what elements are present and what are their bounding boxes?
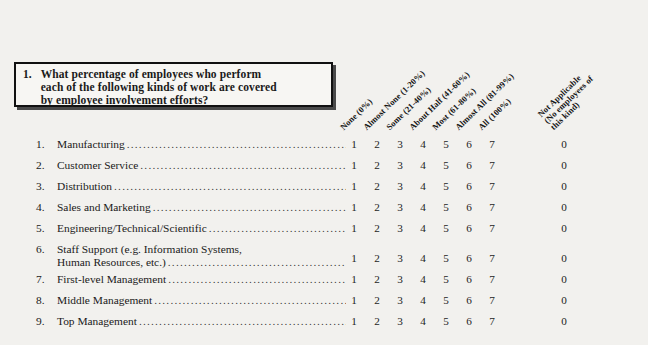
scale-option-most[interactable]: 5 — [439, 315, 453, 328]
scale-option-about-half[interactable]: 4 — [416, 273, 430, 286]
scale-option-none[interactable]: 1 — [347, 222, 361, 235]
scale-option-about-half[interactable]: 4 — [416, 201, 430, 214]
item-label-text: Distribution — [57, 180, 112, 193]
item-label-line: Customer Service — [57, 159, 346, 172]
scale-option-some[interactable]: 3 — [393, 252, 407, 265]
scale-option-some[interactable]: 3 — [393, 138, 407, 151]
item-number: 1. — [36, 138, 45, 151]
scale-option-none[interactable]: 1 — [347, 294, 361, 307]
scale-option-not-applicable[interactable]: 0 — [557, 294, 571, 307]
scale-option-almost-all[interactable]: 6 — [462, 159, 476, 172]
scale-option-some[interactable]: 3 — [393, 201, 407, 214]
scale-option-none[interactable]: 1 — [347, 273, 361, 286]
scale-option-most[interactable]: 5 — [439, 222, 453, 235]
scale-option-all[interactable]: 7 — [485, 159, 499, 172]
item-label: First-level Management — [57, 273, 346, 286]
scale-option-some[interactable]: 3 — [393, 294, 407, 307]
item-label: Middle Management — [57, 294, 346, 307]
scale-option-almost-none[interactable]: 2 — [370, 294, 384, 307]
scale-option-none[interactable]: 1 — [347, 180, 361, 193]
item-label-line: Distribution — [57, 180, 346, 193]
scale-option-almost-none[interactable]: 2 — [370, 159, 384, 172]
scale-option-almost-all[interactable]: 6 — [462, 222, 476, 235]
item-label: Distribution — [57, 180, 346, 193]
item-label-text: Customer Service — [57, 159, 138, 172]
scale-option-not-applicable[interactable]: 0 — [557, 252, 571, 265]
scale-option-most[interactable]: 5 — [439, 180, 453, 193]
scale-option-all[interactable]: 7 — [485, 294, 499, 307]
scale-option-almost-none[interactable]: 2 — [370, 273, 384, 286]
scale-option-none[interactable]: 1 — [347, 201, 361, 214]
scale-option-about-half[interactable]: 4 — [416, 294, 430, 307]
item-row: 5.Engineering/Technical/Scientific 12345… — [0, 218, 648, 239]
item-label-text: Human Resources, etc.) — [57, 256, 166, 269]
scale-option-almost-none[interactable]: 2 — [370, 222, 384, 235]
scale-option-not-applicable[interactable]: 0 — [557, 201, 571, 214]
item-row: 1.Manufacturing12345670 — [0, 134, 648, 155]
scale-option-all[interactable]: 7 — [485, 201, 499, 214]
scale-option-almost-all[interactable]: 6 — [462, 252, 476, 265]
scale-option-not-applicable[interactable]: 0 — [557, 159, 571, 172]
scale-option-about-half[interactable]: 4 — [416, 159, 430, 172]
scale-option-all[interactable]: 7 — [485, 252, 499, 265]
item-label: Manufacturing — [57, 138, 346, 151]
scale-option-not-applicable[interactable]: 0 — [557, 180, 571, 193]
scale-option-some[interactable]: 3 — [393, 273, 407, 286]
scale-option-about-half[interactable]: 4 — [416, 180, 430, 193]
scale-option-not-applicable[interactable]: 0 — [557, 273, 571, 286]
dot-leader — [140, 159, 346, 172]
scale-option-almost-all[interactable]: 6 — [462, 294, 476, 307]
scale-option-all[interactable]: 7 — [485, 273, 499, 286]
scale-option-almost-none[interactable]: 2 — [370, 138, 384, 151]
scale-option-some[interactable]: 3 — [393, 159, 407, 172]
scale-option-about-half[interactable]: 4 — [416, 222, 430, 235]
scale-option-almost-none[interactable]: 2 — [370, 201, 384, 214]
scale-option-most[interactable]: 5 — [439, 294, 453, 307]
scale-option-most[interactable]: 5 — [439, 201, 453, 214]
scale-option-all[interactable]: 7 — [485, 315, 499, 328]
item-label-text: Manufacturing — [57, 138, 125, 151]
scale-option-almost-none[interactable]: 2 — [370, 252, 384, 265]
item-label-line: Engineering/Technical/Scientific — [57, 222, 346, 235]
item-row: 4.Sales and Marketing12345670 — [0, 197, 648, 218]
scale-option-not-applicable[interactable]: 0 — [557, 315, 571, 328]
scale-option-none[interactable]: 1 — [347, 252, 361, 265]
scale-option-some[interactable]: 3 — [393, 315, 407, 328]
scale-option-all[interactable]: 7 — [485, 222, 499, 235]
scale-option-most[interactable]: 5 — [439, 273, 453, 286]
scale-option-almost-all[interactable]: 6 — [462, 138, 476, 151]
scale-option-almost-none[interactable]: 2 — [370, 315, 384, 328]
scale-option-none[interactable]: 1 — [347, 138, 361, 151]
scale-option-not-applicable[interactable]: 0 — [557, 222, 571, 235]
scale-option-all[interactable]: 7 — [485, 180, 499, 193]
dot-leader — [209, 222, 346, 235]
scale-option-about-half[interactable]: 4 — [416, 315, 430, 328]
item-label-line: Staff Support (e.g. Information Systems, — [57, 243, 346, 256]
scale-option-none[interactable]: 1 — [347, 159, 361, 172]
scale-option-most[interactable]: 5 — [439, 252, 453, 265]
scale-option-about-half[interactable]: 4 — [416, 252, 430, 265]
item-label-text: Middle Management — [57, 294, 152, 307]
scale-option-not-applicable[interactable]: 0 — [557, 138, 571, 151]
scale-option-some[interactable]: 3 — [393, 180, 407, 193]
scale-option-all[interactable]: 7 — [485, 138, 499, 151]
scale-option-almost-all[interactable]: 6 — [462, 180, 476, 193]
item-number: 4. — [36, 201, 45, 214]
scale-option-most[interactable]: 5 — [439, 159, 453, 172]
scale-option-some[interactable]: 3 — [393, 222, 407, 235]
scale-option-almost-all[interactable]: 6 — [462, 201, 476, 214]
item-number: 6. — [36, 243, 45, 256]
scale-option-most[interactable]: 5 — [439, 138, 453, 151]
item-row: 2.Customer Service 12345670 — [0, 155, 648, 176]
item-label: Staff Support (e.g. Information Systems,… — [57, 243, 346, 269]
scale-option-almost-none[interactable]: 2 — [370, 180, 384, 193]
dot-leader — [127, 138, 346, 151]
dot-leader — [153, 201, 346, 214]
scale-option-about-half[interactable]: 4 — [416, 138, 430, 151]
scale-option-almost-all[interactable]: 6 — [462, 273, 476, 286]
item-row: 9.Top Management12345670 — [0, 311, 648, 332]
scale-option-almost-all[interactable]: 6 — [462, 315, 476, 328]
survey-form: 1. What percentage of employees who perf… — [0, 0, 648, 345]
item-label-text: Staff Support (e.g. Information Systems, — [57, 243, 242, 256]
scale-option-none[interactable]: 1 — [347, 315, 361, 328]
